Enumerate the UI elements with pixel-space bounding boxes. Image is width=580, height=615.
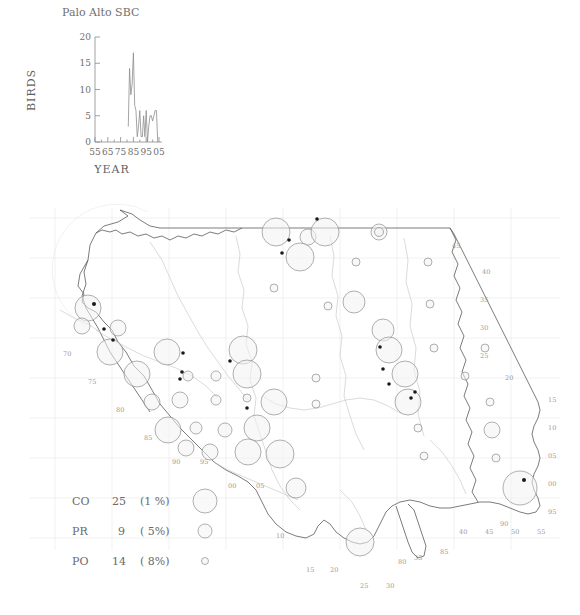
map-label-right-00: 00 [548,480,556,488]
data-circle [211,395,221,405]
legend-symbol-small [202,558,209,565]
data-circle [392,361,418,387]
map-label-right-05: 05 [548,452,556,460]
x-tick-label-65: 65 [102,147,114,157]
y-axis-ticks: 0 5 10 15 20 [80,32,100,147]
data-circle [244,415,270,441]
presence-dot [181,351,185,355]
data-circle [311,218,339,246]
data-circle [461,372,469,380]
data-circle [430,344,438,352]
data-circle [414,424,422,432]
figure-root: Palo Alto SBC 0 5 10 15 20 55 65 75 85 9… [0,0,580,615]
timeseries-panel: Palo Alto SBC 0 5 10 15 20 55 65 75 85 9… [0,0,580,190]
legend-count-2: 14 [112,555,126,568]
presence-dot [387,382,391,386]
timeseries-title: Palo Alto SBC [62,6,139,19]
map-label-left-80: 80 [116,406,124,414]
data-circle [74,318,90,334]
legend-pct-2: ( 8%) [140,555,170,568]
map-label-bottom-85: 85 [440,548,448,556]
map-label-bottom-45: 45 [485,528,493,536]
map-label-bottom-40: 40 [459,528,467,536]
x-tick-label-85: 85 [128,147,140,157]
data-circle [376,337,402,363]
map-label-bottom-50: 50 [511,528,519,536]
data-circle [262,218,290,246]
data-circle [243,394,251,402]
legend-pct-1: ( 5%) [140,525,170,538]
map-label-right-45: 45 [452,242,460,250]
map-label-left-75: 75 [88,378,96,386]
map-label-left-00: 00 [228,482,236,490]
data-circle [426,300,434,308]
data-circle [286,243,314,271]
data-circle-inner [375,228,384,237]
legend: CO 25 (1 %) PR 9 ( 5%) PO 14 ( 8%) [72,489,217,568]
legend-code-0: CO [72,495,89,508]
y-tick-label-20: 20 [80,32,92,42]
data-circle [124,361,150,387]
map-label-right-95: 95 [548,508,556,516]
y-tick-label-0: 0 [85,137,91,147]
x-tick-label-75: 75 [115,147,127,157]
map-label-bottom-10: 10 [276,532,284,540]
data-circle [97,339,123,365]
data-circle [424,258,432,266]
legend-count-1: 9 [118,525,125,538]
data-circle [172,392,188,408]
x-axis-title: YEAR [93,163,130,176]
presence-dot [245,406,249,410]
data-circle [110,320,126,336]
legend-symbol-medium [198,524,212,538]
data-circle [286,478,306,498]
map-label-right-40: 40 [482,268,490,276]
data-circle [503,471,537,505]
y-axis-title: BIRDS [25,69,38,111]
map-label-bottom-80: 80 [398,558,406,566]
data-circle [178,440,194,456]
data-circle [233,360,261,388]
presence-dot [413,390,417,394]
presence-dot [315,217,319,221]
presence-dot [180,370,184,374]
presence-dot [409,396,413,400]
data-circle [346,528,374,556]
timeseries-line [128,53,157,142]
presence-dot [381,367,385,371]
data-circle [352,258,360,266]
map-label-bottom-55: 55 [537,528,545,536]
map-label-left-90: 90 [172,458,180,466]
map-label-bottom-35: 35 [414,554,422,562]
presence-dot [178,377,182,381]
data-circle [486,398,494,406]
map-label-right-30: 30 [480,324,488,332]
presence-dot [522,478,526,482]
presence-dot [102,327,106,331]
y-tick-label-15: 15 [80,58,92,68]
x-tick-label-55: 55 [89,147,101,157]
x-tick-label-95: 95 [140,147,152,157]
presence-dot [378,345,382,349]
x-axis-ticks: 55 65 75 85 95 05 [89,137,165,157]
legend-symbol-large [193,489,217,513]
legend-pct-0: (1 %) [140,495,170,508]
map-label-left-70: 70 [63,350,71,358]
data-circle [420,452,428,460]
data-circle [395,389,421,415]
map-panel: 45 40 35 30 25 20 15 10 05 00 95 70 75 8… [0,190,580,615]
map-label-bottom-30: 30 [386,582,394,590]
data-circle [144,394,160,410]
map-label-left-05: 05 [256,482,264,490]
data-circle [481,344,489,352]
data-circle [190,422,202,434]
data-circle [75,295,101,321]
data-circle [183,371,193,381]
data-circle [229,336,257,364]
y-tick-label-10: 10 [80,85,92,95]
data-circle [492,454,500,462]
legend-code-2: PO [72,555,88,568]
map-label-right-15: 15 [548,396,556,404]
legend-code-1: PR [72,525,88,538]
x-tick-label-05: 05 [153,147,165,157]
